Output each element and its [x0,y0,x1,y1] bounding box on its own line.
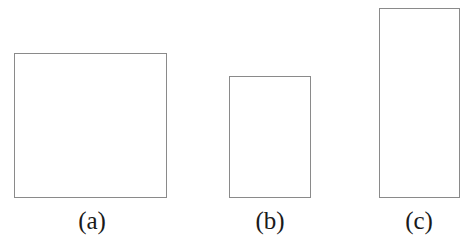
shape-a-square [14,53,167,198]
shape-b-rectangle [229,76,311,198]
shape-c-rectangle [379,8,460,198]
shape-label-a: (a) [52,208,132,233]
shape-label-c: (c) [379,208,459,233]
shape-label-b: (b) [230,208,310,233]
figure-canvas: (a) (b) (c) [0,0,466,246]
